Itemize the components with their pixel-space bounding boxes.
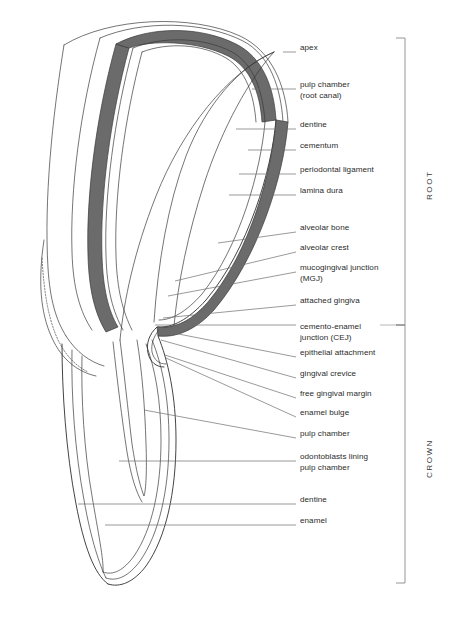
label-alveolar-crest: alveolar crest — [300, 242, 349, 253]
label-enamel-bulge: enamel bulge — [300, 407, 349, 418]
label-free-gingival-margin: free gingival margin — [300, 388, 372, 399]
leader-line-gingival-crevice — [161, 340, 296, 378]
region-brackets — [396, 38, 405, 583]
label-odontoblasts: odontoblasts lining pulp chamber — [300, 451, 368, 474]
label-pulp-chamber-root: pulp chamber (root canal) — [300, 79, 350, 102]
root-dentine-outline-left — [116, 52, 142, 330]
tooth-drawing — [41, 21, 288, 585]
pulp-apex-converge-line — [120, 52, 274, 340]
label-dentine-root: dentine — [300, 119, 327, 130]
region-label-crown: CROWN — [425, 439, 434, 478]
label-apex: apex — [300, 42, 318, 53]
periodontal-ligament-band-apex — [116, 31, 276, 123]
leader-line-free-gingival-margin — [165, 355, 296, 398]
root-outer-surface-inner — [159, 122, 265, 320]
tooth-anatomy-figure: apexpulp chamber (root canal)dentineceme… — [0, 0, 449, 621]
label-periodontal-ligament: periodontal ligament — [300, 164, 374, 175]
label-attached-gingiva: attached gingiva — [300, 295, 360, 306]
label-epithelial-attachment: epithelial attachment — [300, 347, 375, 358]
enamel-outer-surface — [108, 336, 176, 585]
label-mucogingival-junction: mucogingival junction (MGJ) — [300, 262, 378, 285]
leader-line-enamel-bulge — [166, 358, 296, 417]
label-cementum: cementum — [300, 140, 338, 151]
label-dentine-crown: dentine — [300, 494, 327, 505]
bracket-crown — [396, 325, 405, 583]
crown-pulp-chamber-outline — [120, 340, 146, 496]
label-cemento-enamel-junction: cemento-enamel junction (CEJ) — [300, 321, 361, 344]
leader-line-epithelial-attachment — [158, 330, 296, 357]
enamel-inner-surface — [106, 340, 169, 579]
crown-left-inner-surface — [72, 350, 106, 578]
leader-line-pulp-chamber-crown — [144, 410, 296, 438]
odontoblast-lining-outline — [113, 342, 142, 502]
region-label-root: ROOT — [425, 171, 434, 200]
root-canal-outline — [154, 52, 274, 322]
label-lamina-dura: lamina dura — [300, 185, 343, 196]
label-enamel: enamel — [300, 515, 327, 526]
bracket-root — [396, 38, 405, 325]
mucogingival-junction-marker — [42, 258, 88, 372]
label-pulp-chamber-crown: pulp chamber — [300, 428, 350, 439]
label-alveolar-bone: alveolar bone — [300, 222, 349, 233]
alveolar-bone-outer-outline — [47, 45, 66, 336]
attached-gingiva-outline — [41, 240, 96, 376]
label-gingival-crevice: gingival crevice — [300, 368, 356, 379]
tooth-diagram-svg — [0, 0, 449, 621]
